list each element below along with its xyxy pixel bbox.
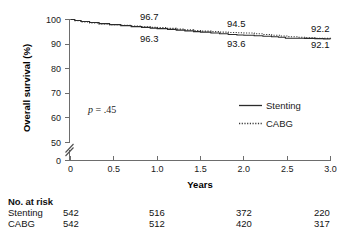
- x-tick-label: 2.5: [281, 164, 294, 174]
- y-tick-label: 100: [46, 15, 61, 25]
- km-survival-figure: Overall survival (%) 100 90 80 70 60 50 …: [0, 0, 345, 241]
- label-stenting-2yr: 93.6: [227, 38, 246, 49]
- risk-table: No. at risk Stenting 542 516 372 220 CAB…: [8, 196, 338, 229]
- label-cabg-2yr: 94.5: [227, 18, 246, 29]
- y-tick-label: 0: [56, 156, 61, 166]
- y-tick-label: 60: [51, 113, 61, 123]
- risk-cell: 542: [63, 207, 79, 218]
- y-axis-ticks: 100 90 80 70 60 50 0: [46, 15, 70, 166]
- y-tick-label: 70: [51, 88, 61, 98]
- table-row: Stenting 542 516 372 220: [8, 207, 338, 218]
- series-line-stenting: [71, 20, 331, 39]
- x-tick-label: 1.5: [194, 164, 207, 174]
- y-tick-label: 80: [51, 64, 61, 74]
- x-tick-label: 0.5: [108, 164, 121, 174]
- legend: Stenting CABG: [239, 100, 301, 129]
- x-tick-label: 2.0: [238, 164, 251, 174]
- legend-label-cabg: CABG: [266, 118, 293, 129]
- x-axis-title: Years: [187, 179, 212, 190]
- label-cabg-1yr: 96.7: [140, 11, 159, 22]
- risk-table-header: No. at risk: [8, 196, 338, 207]
- km-plot-canvas: Overall survival (%) 100 90 80 70 60 50 …: [0, 0, 345, 196]
- risk-cell: 512: [149, 218, 165, 229]
- x-tick-label: 1.0: [151, 164, 164, 174]
- legend-item-stenting[interactable]: Stenting: [239, 100, 301, 111]
- x-tick-label: 3.0: [324, 164, 337, 174]
- label-cabg-3yr: 92.2: [311, 23, 330, 34]
- table-row: CABG 542 512 420 317: [8, 218, 338, 229]
- p-value-annotation: p = .45: [87, 104, 116, 115]
- x-tick-label: 0: [68, 164, 73, 174]
- risk-cell: 317: [314, 218, 330, 229]
- risk-row-label: Stenting: [8, 207, 43, 218]
- legend-label-stenting: Stenting: [266, 100, 301, 111]
- risk-cell: 420: [236, 218, 252, 229]
- risk-cell: 372: [236, 207, 252, 218]
- series-line-cabg: [71, 20, 331, 39]
- risk-row-label: CABG: [8, 218, 35, 229]
- risk-cell: 542: [63, 218, 79, 229]
- risk-cell: 220: [314, 207, 330, 218]
- risk-cell: 516: [149, 207, 165, 218]
- x-axis-ticks: 0 0.5 1.0 1.5 2.0 2.5 3.0: [68, 156, 337, 175]
- y-tick-label: 90: [51, 39, 61, 49]
- label-stenting-1yr: 96.3: [140, 33, 159, 44]
- y-axis-title: Overall survival (%): [21, 44, 32, 132]
- y-tick-label: 50: [51, 138, 61, 148]
- legend-item-cabg[interactable]: CABG: [239, 118, 293, 129]
- label-stenting-3yr: 92.1: [311, 39, 330, 50]
